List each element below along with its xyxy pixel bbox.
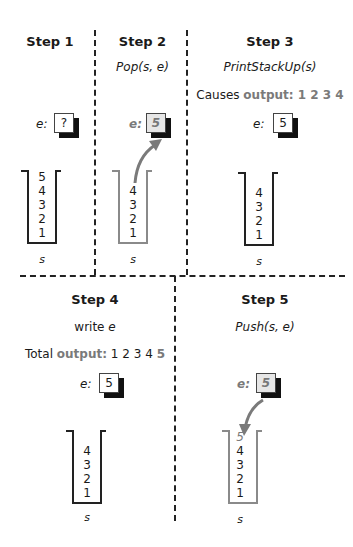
divider-horizontal — [20, 275, 345, 277]
step-4-note-prefix: Total — [25, 347, 57, 361]
stack-item: 3 — [27, 198, 57, 212]
step-2-stack-items: 4 3 2 1 — [118, 184, 148, 240]
step-3-title: Step 3 — [190, 34, 350, 49]
step-3-stack-label: s — [249, 255, 269, 268]
stack-item: 3 — [244, 200, 274, 214]
step-4-output-label: output: — [57, 347, 107, 361]
stack-item: 2 — [27, 212, 57, 226]
stack-item: 5 — [27, 170, 57, 184]
stack-item: 1 — [27, 226, 57, 240]
divider-step1-step2 — [94, 30, 96, 275]
step-3-note-prefix: Causes — [196, 88, 243, 102]
stack-item: 4 — [118, 184, 148, 198]
step-1-title: Step 1 — [10, 34, 90, 49]
step-3-operation: PrintStackUp(s) — [190, 60, 350, 74]
step-2-e-value: 5 — [146, 113, 166, 133]
stack-item: 4 — [27, 184, 57, 198]
step-5-e-label: e: — [237, 377, 250, 391]
stack-item: 1 — [72, 486, 102, 500]
divider-step4-step5 — [174, 276, 176, 521]
stack-item: 2 — [244, 214, 274, 228]
step-4-stack-items: 4 3 2 1 — [72, 444, 102, 500]
stack-item: 3 — [225, 458, 255, 472]
step-5-e-value: 5 — [256, 373, 276, 393]
stack-item: 3 — [118, 198, 148, 212]
step-5-stack-items: 5 4 3 2 1 — [225, 430, 255, 500]
stack-item: 2 — [225, 472, 255, 486]
step-1-stack-items: 5 4 3 2 1 — [27, 170, 57, 240]
step-5-operation: Push(s, e) — [190, 320, 340, 334]
step-5-stack-label: s — [230, 513, 250, 526]
stack-item: 1 — [244, 228, 274, 242]
step-4-operation-word: write — [74, 320, 108, 334]
step-2-stack: 4 3 2 1 — [118, 170, 146, 246]
step-4-stack: 4 3 2 1 — [72, 430, 100, 506]
stack-item: 4 — [72, 444, 102, 458]
stack-item: 2 — [118, 212, 148, 226]
step-3-e-label: e: — [253, 117, 264, 131]
stack-item: 4 — [244, 186, 274, 200]
stack-item-new: 5 — [225, 430, 255, 444]
step-3-stack-items: 4 3 2 1 — [244, 186, 274, 242]
step-2-operation: Pop(s, e) — [100, 60, 185, 74]
stack-item: 2 — [72, 472, 102, 486]
stack-item: 4 — [225, 444, 255, 458]
step-1-e-label: e: — [36, 117, 47, 131]
stack-item: 1 — [118, 226, 148, 240]
step-4-e-box: 5 — [99, 373, 119, 393]
step-4-note: Total output: 1 2 3 4 5 — [20, 347, 170, 361]
step-4-title: Step 4 — [20, 292, 170, 307]
stack-item: 3 — [72, 458, 102, 472]
step-1-stack: 5 4 3 2 1 — [27, 170, 55, 246]
step-5-stack: 5 4 3 2 1 — [228, 430, 256, 506]
step-4-stack-label: s — [77, 511, 97, 524]
step-4-output-new: 5 — [157, 347, 165, 361]
step-2-title: Step 2 — [100, 34, 185, 49]
step-2-e-label: e: — [129, 117, 142, 131]
step-2-e-box: 5 — [146, 113, 166, 133]
step-4-e-label: e: — [80, 377, 91, 391]
step-3-stack: 4 3 2 1 — [244, 172, 272, 248]
step-1-e-box: ? — [54, 113, 74, 133]
step-4-output-values: 1 2 3 4 — [107, 347, 157, 361]
step-3-output: output: 1 2 3 4 — [243, 88, 343, 102]
divider-step2-step3 — [186, 30, 188, 275]
step-3-e-box: 5 — [273, 113, 293, 133]
step-4-operation-var: e — [108, 320, 115, 334]
step-5-title: Step 5 — [190, 292, 340, 307]
step-3-note: Causes output: 1 2 3 4 — [190, 88, 350, 102]
stack-item: 1 — [225, 486, 255, 500]
step-1-stack-label: s — [32, 253, 52, 266]
step-3-e-value: 5 — [273, 113, 293, 133]
step-4-operation: write e — [20, 320, 170, 334]
step-1-e-value: ? — [54, 113, 74, 133]
step-4-e-value: 5 — [99, 373, 119, 393]
step-2-stack-label: s — [123, 253, 143, 266]
step-5-e-box: 5 — [256, 373, 276, 393]
